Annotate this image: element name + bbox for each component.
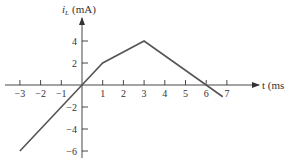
chart: −3−2−11234567 42−2−4−6 t (ms) iL(mA) — [0, 0, 285, 161]
x-tick-label: 7 — [224, 88, 229, 99]
x-tick-label: 4 — [162, 88, 167, 99]
x-ticks: −3−2−11234567 — [15, 80, 230, 99]
y-tick-label: −6 — [66, 146, 77, 157]
y-ticks: 42−2−4−6 — [66, 36, 88, 157]
x-tick-label: −2 — [35, 88, 46, 99]
y-tick-label: −2 — [66, 102, 77, 113]
y-tick-label: −4 — [66, 124, 77, 135]
x-tick-label: 2 — [121, 88, 126, 99]
x-tick-label: 6 — [204, 88, 209, 99]
x-tick-label: −1 — [56, 88, 67, 99]
x-tick-label: 1 — [100, 88, 105, 99]
y-axis-label: iL(mA) — [62, 3, 96, 17]
x-tick-label: 5 — [183, 88, 188, 99]
x-tick-label: −3 — [15, 88, 26, 99]
x-tick-label: 3 — [142, 88, 147, 99]
y-tick-label: 2 — [72, 58, 77, 69]
x-axis-label: t (ms) — [262, 79, 285, 92]
y-tick-label: 4 — [72, 36, 77, 47]
